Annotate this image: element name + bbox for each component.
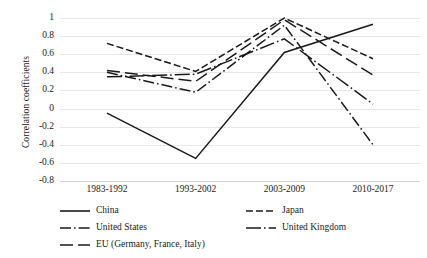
series-line-united-states [107, 25, 373, 145]
correlation-coefficients-line-chart: Correlation coefficients 10.80.60.40.20-… [0, 0, 427, 258]
y-axis-tick-label: 0.4 [20, 68, 54, 78]
chart-legend: ChinaUnited StatesEU (Germany, France, I… [60, 203, 390, 253]
x-axis-tick-label: 2010-2017 [328, 184, 418, 194]
legend-item-united-states[interactable]: United States [60, 220, 147, 235]
y-axis-tick-label: -0.6 [20, 158, 54, 168]
y-axis-tick-label: 0 [20, 104, 54, 114]
x-axis-line [60, 181, 420, 182]
legend-swatch-eu-germany-france-italy [60, 240, 90, 250]
legend-item-japan[interactable]: Japan [246, 203, 304, 218]
legend-item-united-kingdom[interactable]: United Kingdom [246, 220, 346, 235]
x-axis-tick-label: 1983-1992 [62, 184, 152, 194]
y-axis-tick-label: -0.2 [20, 122, 54, 132]
legend-label-eu-germany-france-italy: EU (Germany, France, Italy) [96, 240, 205, 250]
series-line-eu-germany-france-italy [107, 20, 373, 82]
legend-item-china[interactable]: China [60, 203, 119, 218]
series-lines [60, 18, 420, 181]
y-axis-tick-label: 0.8 [20, 31, 54, 41]
legend-item-eu-germany-france-italy[interactable]: EU (Germany, France, Italy) [60, 237, 205, 252]
series-line-united-kingdom [107, 39, 373, 104]
plot-area [60, 18, 420, 181]
legend-label-united-states: United States [96, 223, 147, 233]
series-line-japan [107, 18, 373, 71]
x-axis-tick-label: 2003-2009 [239, 184, 329, 194]
legend-swatch-united-states [60, 223, 90, 233]
legend-swatch-japan [246, 206, 276, 216]
legend-label-united-kingdom: United Kingdom [282, 223, 346, 233]
y-axis-tick-label: 0.6 [20, 49, 54, 59]
y-axis-tick-label: 1 [20, 13, 54, 23]
y-axis-tick-label: -0.8 [20, 176, 54, 186]
x-axis-tick-label: 1993-2002 [151, 184, 241, 194]
legend-swatch-china [60, 206, 90, 216]
y-axis-tick-label: -0.4 [20, 140, 54, 150]
legend-label-china: China [96, 206, 119, 216]
y-axis-tick-labels: 10.80.60.40.20-0.2-0.4-0.6-0.8 [20, 0, 54, 258]
legend-label-japan: Japan [282, 206, 304, 216]
x-axis-tick-labels: 1983-19921993-20022003-20092010-2017 [60, 184, 420, 198]
y-axis-tick-label: 0.2 [20, 86, 54, 96]
legend-swatch-united-kingdom [246, 223, 276, 233]
